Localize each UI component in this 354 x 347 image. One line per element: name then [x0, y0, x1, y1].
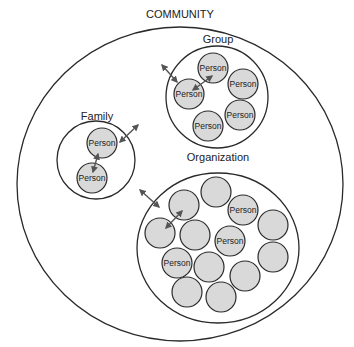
- person-circle: [194, 252, 224, 282]
- person-node: [258, 242, 288, 272]
- person-label: Person: [230, 205, 257, 215]
- person-circle: [201, 177, 231, 207]
- family-cluster: Family PersonPerson: [57, 110, 135, 199]
- person-label: Person: [89, 138, 116, 148]
- person-circle: [172, 277, 202, 307]
- person-circle: [206, 282, 236, 312]
- family-persons: PersonPerson: [77, 128, 117, 193]
- person-label: Person: [200, 63, 227, 73]
- organization-cluster: Organization PersonPersonPerson: [137, 151, 299, 323]
- person-label: Person: [230, 79, 257, 89]
- person-node: [201, 177, 231, 207]
- person-node: Person: [193, 111, 223, 141]
- organization-persons: PersonPersonPerson: [145, 177, 288, 312]
- person-node: Person: [228, 69, 258, 99]
- organization-boundary-arrow-icon: [140, 190, 159, 207]
- person-label: Person: [227, 110, 254, 120]
- person-node: [180, 220, 210, 250]
- person-node: Person: [77, 163, 107, 193]
- person-circle: [230, 261, 260, 291]
- person-circle: [258, 210, 288, 240]
- person-node: Person: [87, 128, 117, 158]
- person-node: [258, 210, 288, 240]
- person-node: Person: [228, 195, 258, 225]
- person-label: Person: [79, 173, 106, 183]
- person-label: Person: [195, 121, 222, 131]
- person-circle: [169, 190, 199, 220]
- person-node: [206, 282, 236, 312]
- person-label: Person: [217, 236, 244, 246]
- person-node: [172, 277, 202, 307]
- community-diagram: COMMUNITY Group PersonPersonPersonPerson…: [0, 0, 354, 347]
- person-circle: [258, 242, 288, 272]
- person-label: Person: [176, 89, 203, 99]
- group-label: Group: [203, 33, 234, 45]
- person-label: Person: [164, 258, 191, 268]
- organization-label: Organization: [187, 151, 249, 163]
- person-node: Person: [198, 53, 228, 83]
- person-node: Person: [162, 248, 192, 278]
- group-cluster: Group PersonPersonPersonPersonPerson: [166, 33, 268, 148]
- community-label: COMMUNITY: [146, 8, 214, 20]
- person-node: [194, 252, 224, 282]
- group-persons: PersonPersonPersonPersonPerson: [174, 53, 258, 141]
- person-circle: [180, 220, 210, 250]
- person-node: Person: [215, 226, 245, 256]
- person-node: Person: [174, 79, 204, 109]
- person-node: [169, 190, 199, 220]
- person-node: Person: [225, 100, 255, 130]
- family-label: Family: [81, 110, 114, 122]
- person-node: [230, 261, 260, 291]
